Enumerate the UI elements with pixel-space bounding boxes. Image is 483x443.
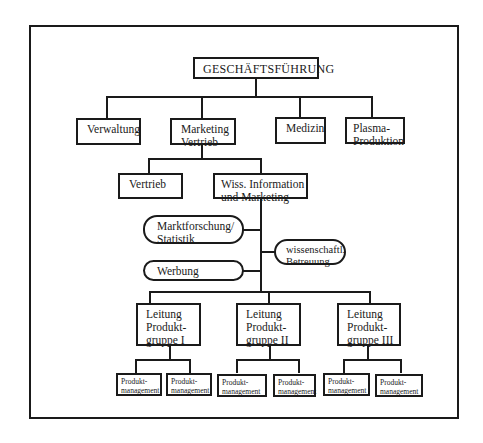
- node-plasma-produktion: Plasma- Produktion: [345, 117, 405, 144]
- node-werbung: Werbung: [143, 260, 244, 281]
- node-produktmanagement: Produkt- management: [375, 374, 423, 397]
- connector: [106, 96, 373, 98]
- node-verwaltung: Verwaltung: [76, 118, 141, 145]
- node-leitung-produktgruppe-2: Leitung Produkt- gruppe II: [236, 303, 301, 346]
- node-geschaeftsfuehrung: GESCHÄFTSFÜHRUNG: [193, 57, 319, 79]
- connector: [106, 96, 108, 118]
- connector: [236, 359, 238, 373]
- node-produktmanagement: Produkt- management: [166, 373, 212, 396]
- connector: [343, 359, 402, 361]
- connector: [148, 158, 262, 160]
- connector: [367, 345, 369, 360]
- node-produktmanagement: Produkt- management: [323, 373, 370, 396]
- connector: [268, 291, 270, 303]
- connector: [298, 359, 300, 373]
- connector: [343, 359, 345, 373]
- node-wissenschaftl-betreuung: wissenschaftl. Betreuung: [274, 239, 346, 265]
- node-produktmanagement: Produkt- management: [116, 373, 162, 396]
- node-produktmanagement: Produkt- management: [273, 374, 316, 397]
- connector: [135, 359, 137, 373]
- connector: [149, 291, 151, 303]
- connector: [243, 270, 261, 272]
- node-leitung-produktgruppe-3: Leitung Produkt- gruppe III: [337, 303, 401, 346]
- connector: [236, 359, 300, 361]
- connector: [260, 158, 262, 173]
- node-produktmanagement: Produkt- management: [217, 374, 267, 397]
- connector: [243, 229, 261, 231]
- connector: [149, 291, 371, 293]
- connector: [201, 96, 203, 118]
- connector: [260, 198, 262, 293]
- connector: [148, 158, 150, 173]
- connector: [261, 251, 275, 253]
- connector: [255, 78, 257, 98]
- connector: [299, 96, 301, 117]
- connector: [189, 359, 191, 373]
- connector: [169, 345, 171, 360]
- connector: [269, 345, 271, 360]
- connector: [135, 359, 191, 361]
- node-marketing-vertrieb: Marketing Vertrieb: [170, 118, 236, 145]
- connector: [400, 359, 402, 373]
- node-vertrieb: Vertrieb: [118, 173, 183, 199]
- connector: [371, 96, 373, 117]
- node-leitung-produktgruppe-1: Leitung Produkt- gruppe I: [136, 303, 201, 346]
- node-wiss-information: Wiss. Information und Marketing: [213, 173, 308, 199]
- node-marktforschung: Marktforschung/ Statistik: [143, 215, 244, 244]
- connector: [369, 291, 371, 303]
- node-medizin: Medizin: [275, 117, 326, 144]
